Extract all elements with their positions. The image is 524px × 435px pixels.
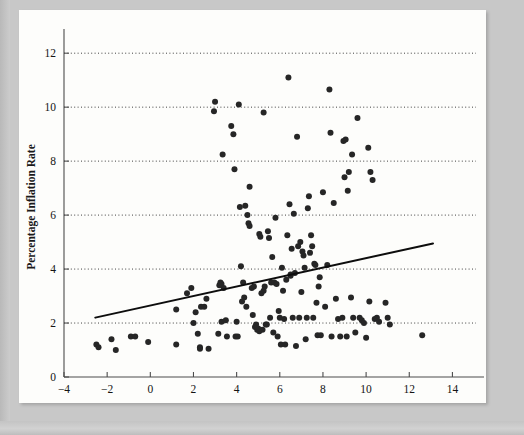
data-point	[419, 332, 425, 338]
x-tick-label-14: 14	[447, 383, 459, 395]
x-tick-label-0: 0	[147, 383, 153, 395]
data-point	[316, 284, 322, 290]
data-point	[296, 315, 302, 321]
figure-root: −4−202468101214 024681012 Percentage Mon…	[0, 0, 524, 435]
regression-trend-line	[95, 243, 433, 317]
data-point	[195, 331, 201, 337]
data-point	[297, 239, 303, 245]
x-tick-label-12: 12	[404, 383, 416, 395]
data-point	[280, 288, 286, 294]
x-tick-label-8: 8	[320, 383, 326, 395]
x-tick-label-4: 4	[234, 383, 240, 395]
data-point	[220, 151, 226, 157]
data-point	[370, 177, 376, 183]
data-point	[145, 339, 151, 345]
data-point	[329, 334, 335, 340]
data-point	[96, 344, 102, 350]
data-points-group	[93, 74, 425, 353]
data-point	[284, 232, 290, 238]
data-point	[289, 246, 295, 252]
data-point	[339, 315, 345, 321]
data-point	[281, 316, 287, 322]
data-point	[348, 294, 354, 300]
y-tick-label-0: 0	[50, 371, 56, 383]
data-point	[228, 123, 234, 129]
data-point	[173, 342, 179, 348]
y-axis-title: Percentage Inflation Rate	[25, 144, 38, 270]
data-point	[241, 294, 247, 300]
data-point	[272, 215, 278, 221]
data-point	[190, 320, 196, 326]
data-point	[266, 235, 272, 241]
data-point	[385, 315, 391, 321]
page-edge-shading-bottom	[0, 421, 524, 435]
data-point	[275, 334, 281, 340]
data-point	[383, 300, 389, 306]
data-point	[333, 296, 339, 302]
data-point	[302, 265, 308, 271]
data-point	[243, 304, 249, 310]
data-point	[264, 321, 270, 327]
data-point	[328, 130, 334, 136]
data-point	[306, 193, 312, 199]
data-point	[293, 343, 299, 349]
data-point	[344, 334, 350, 340]
page-edge-shading-left	[0, 0, 10, 435]
data-point	[231, 166, 237, 172]
x-tick-label--2: −2	[101, 383, 113, 395]
data-point	[242, 203, 248, 209]
data-point	[337, 334, 343, 340]
data-point	[206, 346, 212, 352]
data-point	[342, 174, 348, 180]
x-axis-ticks-group: −4−202468101214	[58, 372, 459, 395]
data-point	[365, 145, 371, 151]
data-point	[317, 274, 323, 280]
data-point	[265, 228, 271, 234]
y-tick-label-2: 2	[50, 317, 56, 329]
data-point	[234, 319, 240, 325]
data-point	[193, 309, 199, 315]
data-point	[350, 315, 356, 321]
data-point	[320, 189, 326, 195]
data-point	[113, 347, 119, 353]
data-point	[290, 315, 296, 321]
data-point	[188, 285, 194, 291]
data-point	[301, 253, 307, 259]
data-point	[223, 317, 229, 323]
data-point	[267, 315, 273, 321]
data-point	[349, 151, 355, 157]
data-point	[224, 334, 230, 340]
data-point	[269, 254, 275, 260]
data-point	[235, 334, 241, 340]
data-point	[274, 281, 280, 287]
data-point	[260, 327, 266, 333]
data-point	[291, 211, 297, 217]
data-point	[247, 184, 253, 190]
data-point	[303, 336, 309, 342]
data-point	[237, 204, 243, 210]
y-tick-label-6: 6	[50, 209, 56, 221]
data-point	[212, 99, 218, 105]
data-point	[354, 115, 360, 121]
data-point	[250, 312, 256, 318]
data-point	[230, 131, 236, 137]
data-point	[305, 205, 311, 211]
data-point	[203, 296, 209, 302]
x-tick-label-2: 2	[191, 383, 197, 395]
data-point	[287, 201, 293, 207]
x-tick-label-10: 10	[360, 383, 372, 395]
data-point	[201, 304, 207, 310]
y-tick-label-12: 12	[45, 47, 57, 59]
axes-group	[64, 29, 484, 377]
data-point	[304, 315, 310, 321]
x-tick-label--4: −4	[58, 383, 70, 395]
data-point	[322, 304, 328, 310]
data-point	[197, 346, 203, 352]
data-point	[310, 315, 316, 321]
data-point	[376, 319, 382, 325]
data-point	[215, 331, 221, 337]
data-point	[279, 265, 285, 271]
data-point	[361, 320, 367, 326]
data-point	[298, 289, 304, 295]
data-point	[331, 200, 337, 206]
